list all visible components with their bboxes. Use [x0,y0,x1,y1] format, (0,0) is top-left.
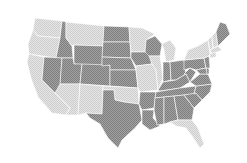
us-map [0,0,247,163]
state-NM [78,84,103,115]
state-ND [103,26,130,42]
state-IN [163,62,171,82]
state-AR [139,92,156,110]
state-CO [80,64,110,86]
state-CT [210,52,216,58]
state-ME [216,22,230,46]
state-NY [184,40,210,60]
state-WY [74,45,103,66]
state-FL [170,120,204,148]
state-WI [145,36,162,56]
state-KS [110,70,138,88]
state-MT [66,22,104,46]
state-MI [162,40,176,62]
state-SD [102,42,131,58]
